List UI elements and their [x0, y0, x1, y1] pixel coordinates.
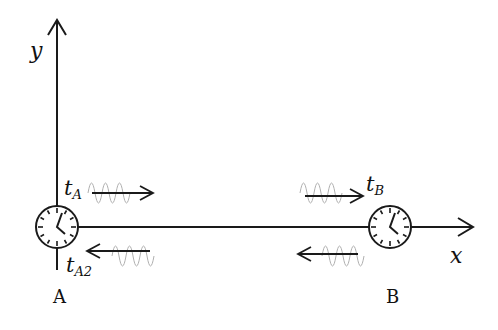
point-a-label: A: [52, 286, 67, 307]
clock-b-icon: [369, 206, 411, 248]
t-b-label: tB: [366, 172, 384, 198]
signal-wave-a-to-b-left: [88, 183, 153, 203]
signal-wave-b-to-a-left: [87, 244, 154, 266]
x-axis: [77, 218, 473, 236]
x-axis-label: x: [450, 243, 463, 268]
clock-a-icon: [36, 206, 78, 248]
t-a2-label: tA2: [66, 253, 92, 279]
y-axis-label: y: [29, 38, 43, 63]
point-b-label: B: [386, 286, 399, 307]
diagram-canvas: y x: [0, 0, 498, 330]
signal-wave-a-to-b-right: [300, 183, 363, 203]
t-a-label: tA: [64, 176, 82, 202]
signal-wave-b-to-a-right: [298, 246, 364, 266]
